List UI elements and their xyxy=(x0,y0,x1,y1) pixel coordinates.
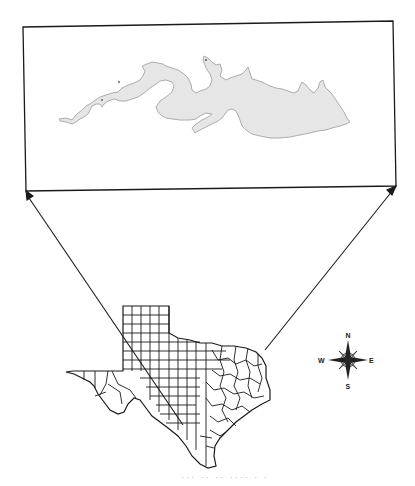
map-figure: N S E W xyxy=(0,0,415,486)
compass-east-label: E xyxy=(369,357,374,364)
compass-south-label: S xyxy=(346,383,351,390)
compass-west-label: W xyxy=(318,357,325,364)
texas-county-map xyxy=(66,306,270,468)
compass-rose-icon: N S E W xyxy=(318,332,374,390)
leader-lines xyxy=(26,186,396,425)
figure-caption: ··· ·· ·· ···· · · xyxy=(150,472,300,486)
compass-north-label: N xyxy=(346,332,351,339)
